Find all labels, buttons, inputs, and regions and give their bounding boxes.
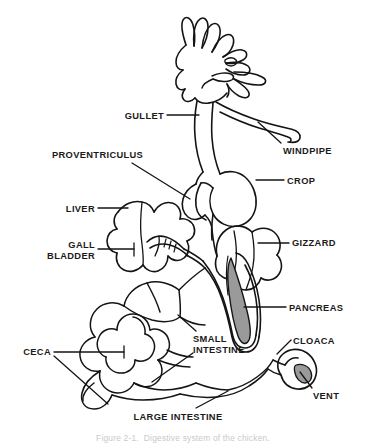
small-intestine-coils (80, 268, 205, 393)
label-crop: CROP (287, 176, 339, 187)
label-gullet: GULLET (106, 111, 164, 122)
label-windpipe: WINDPIPE (283, 146, 363, 157)
crop-outline (196, 172, 256, 227)
diagram-page: GULLET WINDPIPE PROVENTRICULUS CROP LIVE… (0, 0, 366, 444)
label-large-intestine: LARGE INTESTINE (118, 412, 238, 423)
label-cloaca: CLOACA (293, 336, 349, 347)
label-ceca: CECA (11, 347, 51, 358)
gall-bladder-outline (147, 236, 205, 268)
label-liver: LIVER (45, 204, 95, 215)
gullet-tube (195, 101, 220, 174)
vent-opening (294, 364, 311, 383)
liver-outline (107, 201, 195, 271)
label-gizzard: GIZZARD (292, 238, 354, 249)
figure-caption: Figure 2-1. Digestive system of the chic… (0, 433, 366, 443)
label-vent: VENT (313, 391, 353, 402)
label-gall-bladder: GALL BLADDER (28, 240, 95, 261)
label-pancreas: PANCREAS (289, 303, 357, 314)
gizzard-outline (216, 226, 282, 290)
label-proventriculus: PROVENTRICULUS (52, 150, 158, 161)
anatomy-figure (0, 0, 366, 444)
label-small-intestine: SMALL INTESTINE (193, 334, 265, 355)
head-outline (176, 18, 266, 104)
